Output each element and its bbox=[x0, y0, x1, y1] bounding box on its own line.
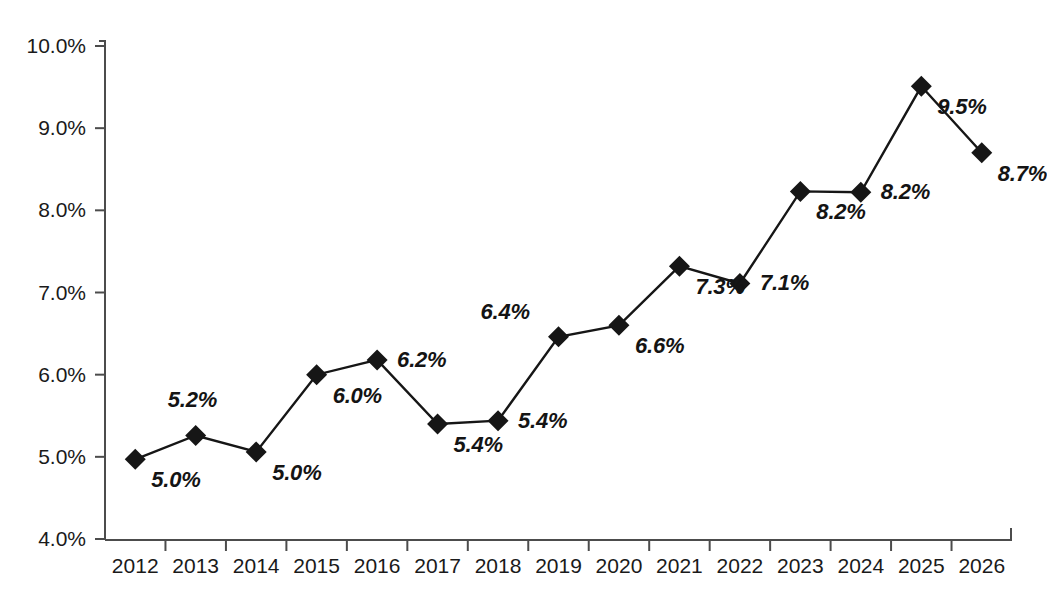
y-tick-label: 5.0% bbox=[0, 446, 86, 467]
data-point-label: 6.2% bbox=[397, 349, 446, 371]
data-point-marker bbox=[246, 441, 267, 462]
y-tick-label: 8.0% bbox=[0, 199, 86, 220]
y-tick-label: 9.0% bbox=[0, 117, 86, 138]
data-point-label: 5.4% bbox=[454, 434, 503, 456]
axis-lines bbox=[99, 40, 1012, 540]
data-point-label: 8.2% bbox=[816, 201, 865, 223]
data-point-label: 8.7% bbox=[998, 163, 1047, 185]
data-point-marker bbox=[488, 410, 509, 431]
data-point-label: 6.4% bbox=[481, 301, 530, 323]
data-point-label: 6.6% bbox=[635, 335, 684, 357]
data-point-label: 5.0% bbox=[272, 462, 321, 484]
data-point-marker bbox=[790, 181, 811, 202]
line-chart: 4.0%5.0%6.0%7.0%8.0%9.0%10.0% 2012201320… bbox=[0, 0, 1047, 606]
y-tick-label: 6.0% bbox=[0, 364, 86, 385]
y-tick-label: 4.0% bbox=[0, 528, 86, 549]
data-point-marker bbox=[185, 425, 206, 446]
data-point-label: 8.2% bbox=[881, 181, 930, 203]
data-point-label: 6.0% bbox=[333, 385, 382, 407]
x-tick-label: 2026 bbox=[942, 555, 1022, 576]
data-point-label: 7.3% bbox=[695, 276, 744, 298]
data-point-label: 5.4% bbox=[518, 410, 567, 432]
data-point-marker bbox=[125, 449, 146, 470]
y-tick-label: 7.0% bbox=[0, 282, 86, 303]
data-point-label: 9.5% bbox=[937, 96, 986, 118]
data-point-marker bbox=[548, 326, 569, 347]
data-point-label: 5.0% bbox=[151, 469, 200, 491]
data-point-label: 5.2% bbox=[168, 389, 217, 411]
series-line bbox=[135, 86, 982, 459]
x-tick-marks bbox=[165, 540, 951, 551]
data-point-marker bbox=[306, 364, 327, 385]
data-point-label: 7.1% bbox=[760, 272, 809, 294]
y-tick-label: 10.0% bbox=[0, 35, 86, 56]
y-tick-marks bbox=[95, 46, 105, 539]
